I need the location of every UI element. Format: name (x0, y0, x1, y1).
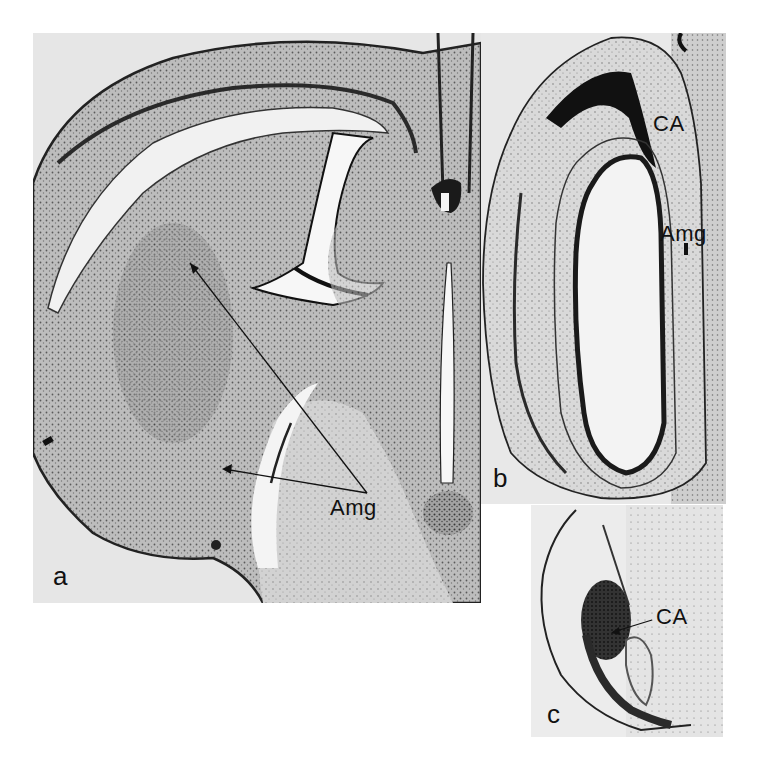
panel-c: CA c (531, 505, 723, 737)
figure: a Amg (0, 0, 757, 765)
panel-b: CA Amg b (481, 33, 726, 504)
panel-letter-b: b (493, 465, 507, 491)
label-ca-c: CA (656, 606, 688, 628)
label-amg-a: Amg (330, 497, 377, 519)
label-ca-b: CA (653, 113, 685, 135)
brain-section-b-image (481, 33, 726, 504)
brain-section-a-image (33, 33, 481, 603)
label-amg-b: Amg (660, 223, 707, 245)
panel-letter-a: a (53, 563, 67, 589)
panel-a: a Amg (33, 33, 481, 603)
panel-letter-c: c (547, 701, 560, 727)
